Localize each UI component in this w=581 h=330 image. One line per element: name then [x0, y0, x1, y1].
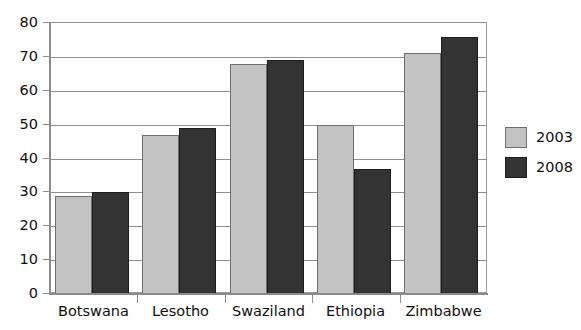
legend-swatch-icon	[505, 157, 527, 178]
y-axis-tick-label: 40	[8, 151, 38, 166]
x-tick-mark	[312, 295, 313, 303]
legend-label: 2003	[536, 130, 573, 145]
x-axis-label-lesotho: Lesotho	[137, 303, 224, 319]
bar-zimbabwe-2008	[441, 37, 478, 294]
y-tick-mark	[43, 124, 50, 125]
bar-ethiopia-2003	[317, 125, 354, 294]
y-tick-mark	[43, 22, 50, 23]
y-axis-tick-label: 30	[8, 184, 38, 199]
y-tick-mark	[43, 293, 50, 294]
bar-botswana-2003	[55, 196, 92, 294]
plot-area	[50, 22, 487, 293]
legend-item-2003: 2003	[505, 122, 573, 152]
bar-swaziland-2008	[267, 60, 304, 294]
bar-botswana-2008	[92, 192, 129, 294]
bar-zimbabwe-2003	[404, 53, 441, 294]
y-tick-mark	[43, 158, 50, 159]
x-axis-label-swaziland: Swaziland	[225, 303, 312, 319]
x-axis-label-ethiopia: Ethiopia	[312, 303, 399, 319]
y-axis-tick-label: 70	[8, 49, 38, 64]
y-axis-tick-label: 60	[8, 83, 38, 98]
x-axis-line	[49, 293, 488, 295]
y-tick-mark	[43, 56, 50, 57]
y-axis-tick-label: 0	[8, 286, 38, 301]
x-tick-mark	[225, 295, 226, 303]
x-tick-mark	[400, 295, 401, 303]
x-axis-label-botswana: Botswana	[50, 303, 137, 319]
y-axis-tick-label: 20	[8, 218, 38, 233]
y-tick-mark	[43, 90, 50, 91]
bar-swaziland-2003	[230, 64, 267, 294]
legend-item-2008: 2008	[505, 152, 573, 182]
y-tick-mark	[43, 225, 50, 226]
x-tick-mark	[137, 295, 138, 303]
x-axis-label-zimbabwe: Zimbabwe	[400, 303, 487, 319]
bar-ethiopia-2008	[354, 169, 391, 294]
chart-legend: 20032008	[505, 122, 573, 182]
y-tick-mark	[43, 191, 50, 192]
bar-lesotho-2003	[142, 135, 179, 294]
bar-lesotho-2008	[179, 128, 216, 294]
legend-label: 2008	[536, 160, 573, 175]
y-tick-mark	[43, 259, 50, 260]
legend-swatch-icon	[505, 127, 527, 148]
bar-chart: 20032008 80706050403020100BotswanaLesoth…	[0, 0, 581, 330]
y-axis-tick-label: 10	[8, 252, 38, 267]
y-axis-tick-label: 50	[8, 117, 38, 132]
y-axis-tick-label: 80	[8, 15, 38, 30]
